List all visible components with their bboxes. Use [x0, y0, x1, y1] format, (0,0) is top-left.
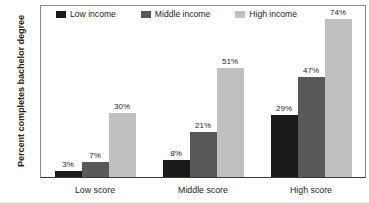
bars-layer: 3%7%30%8%21%51%29%47%74%: [41, 6, 365, 177]
bar[interactable]: 7%: [82, 162, 109, 177]
bar-value-label: 29%: [276, 105, 292, 113]
bar[interactable]: 21%: [190, 132, 217, 177]
bar[interactable]: 3%: [55, 171, 82, 177]
x-axis-category-labels: Low scoreMiddle scoreHigh score: [41, 185, 365, 199]
bar[interactable]: 74%: [325, 19, 352, 177]
bar-value-label: 3%: [62, 161, 74, 169]
x-axis-label: Middle score: [149, 185, 257, 195]
y-axis-title: Percent completes bachelor degree: [16, 6, 26, 176]
bottom-divider: [0, 202, 369, 203]
bar-chart: Percent completes bachelor degree 010203…: [0, 0, 369, 203]
bar-value-label: 8%: [170, 150, 182, 158]
bar-group: 8%21%51%: [149, 6, 257, 177]
bar-value-label: 7%: [89, 152, 101, 160]
bar-group: 29%47%74%: [257, 6, 365, 177]
bar-value-label: 51%: [222, 58, 238, 66]
bar[interactable]: 30%: [109, 113, 136, 177]
bar[interactable]: 47%: [298, 77, 325, 177]
x-axis-label: Low score: [41, 185, 149, 195]
x-axis-label: High score: [257, 185, 365, 195]
bar[interactable]: 8%: [163, 160, 190, 177]
bar-group: 3%7%30%: [41, 6, 149, 177]
bar-value-label: 21%: [195, 122, 211, 130]
bar-value-label: 30%: [114, 103, 130, 111]
bar[interactable]: 51%: [217, 68, 244, 177]
bar-value-label: 47%: [303, 67, 319, 75]
bar-value-label: 74%: [330, 9, 346, 17]
bar[interactable]: 29%: [271, 115, 298, 177]
